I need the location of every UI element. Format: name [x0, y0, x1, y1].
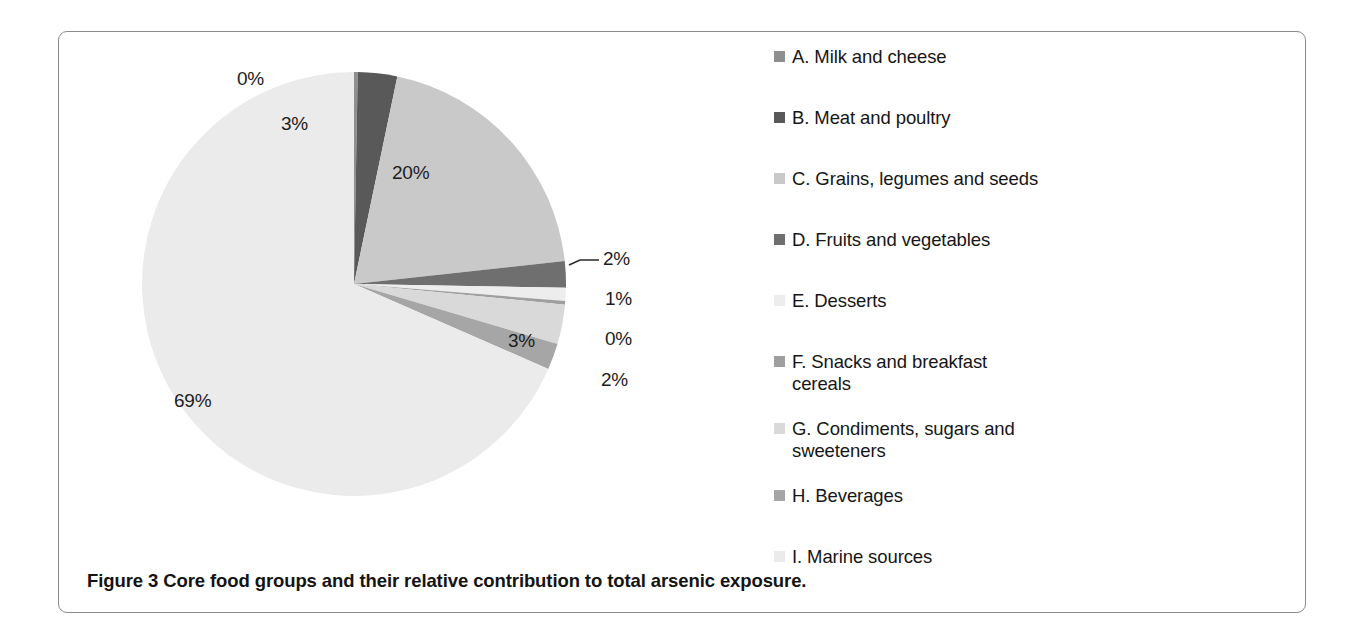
pie-chart-svg: [59, 32, 779, 532]
legend-swatch-icon: [774, 51, 785, 62]
legend-swatch-icon: [774, 234, 785, 245]
pie-slices: [142, 72, 566, 496]
pie-value-label: 0%: [237, 68, 264, 90]
legend-item-i[interactable]: I. Marine sources: [774, 546, 1194, 586]
legend-item-label: H. Beverages: [792, 485, 903, 507]
legend-item-h[interactable]: H. Beverages: [774, 485, 1194, 546]
figure-frame: 0% 3% 20% 2% 1% 3% 0% 2% 69% A. Milk and…: [58, 31, 1306, 613]
legend-item-f[interactable]: F. Snacks and breakfast cereals: [774, 351, 1194, 418]
legend-item-label: F. Snacks and breakfast cereals: [792, 351, 1002, 395]
legend-swatch-icon: [774, 423, 785, 434]
pie-value-label: 0%: [605, 328, 632, 350]
pie-value-label: 3%: [508, 330, 535, 352]
figure-caption: Figure 3 Core food groups and their rela…: [87, 570, 806, 592]
legend-item-c[interactable]: C. Grains, legumes and seeds: [774, 168, 1194, 229]
figure-caption-text: Core food groups and their relative cont…: [163, 570, 806, 591]
legend-item-label: D. Fruits and vegetables: [792, 229, 990, 251]
pie-value-label: 69%: [174, 390, 211, 412]
legend-item-d[interactable]: D. Fruits and vegetables: [774, 229, 1194, 290]
legend-item-e[interactable]: E. Desserts: [774, 290, 1194, 351]
legend-item-label: A. Milk and cheese: [792, 46, 947, 68]
legend-item-label: E. Desserts: [792, 290, 887, 312]
legend-item-b[interactable]: B. Meat and poultry: [774, 107, 1194, 168]
pie-value-label: 3%: [281, 113, 308, 135]
legend-item-g[interactable]: G. Condiments, sugars and sweeteners: [774, 418, 1194, 485]
legend-item-label: B. Meat and poultry: [792, 107, 951, 129]
pie-value-label: 2%: [601, 369, 628, 391]
legend-swatch-icon: [774, 112, 785, 123]
pie-value-label: 20%: [392, 162, 429, 184]
pie-value-label: 2%: [603, 248, 630, 270]
pie-value-label: 1%: [605, 288, 632, 310]
legend-swatch-icon: [774, 173, 785, 184]
legend-swatch-icon: [774, 295, 785, 306]
legend-item-label: G. Condiments, sugars and sweeteners: [792, 418, 1032, 462]
figure-caption-label: Figure 3: [87, 570, 158, 591]
legend: A. Milk and cheese B. Meat and poultry C…: [774, 46, 1194, 586]
pie-chart: 0% 3% 20% 2% 1% 3% 0% 2% 69%: [59, 32, 779, 532]
leader-line-d: [569, 260, 599, 265]
legend-swatch-icon: [774, 490, 785, 501]
legend-item-a[interactable]: A. Milk and cheese: [774, 46, 1194, 107]
legend-item-label: I. Marine sources: [792, 546, 932, 568]
legend-item-label: C. Grains, legumes and seeds: [792, 168, 1038, 190]
legend-swatch-icon: [774, 551, 785, 562]
legend-swatch-icon: [774, 356, 785, 367]
